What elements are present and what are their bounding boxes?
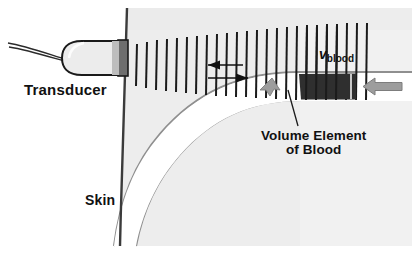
transducer-probe xyxy=(62,40,128,76)
skin-label: Skin xyxy=(85,193,115,208)
blood-velocity-label: vblood xyxy=(319,47,354,64)
volume-element-line-1: Volume Element xyxy=(261,128,366,143)
transducer-label: Transducer xyxy=(24,82,107,98)
doppler-ultrasound-diagram: Transducer Skin vblood Volume Element of… xyxy=(0,0,412,254)
volume-element-label: Volume Element of Blood xyxy=(261,129,366,157)
transducer-cable xyxy=(8,43,68,62)
velocity-subscript: blood xyxy=(327,53,354,64)
diagram-graphics xyxy=(0,0,412,254)
velocity-symbol: v xyxy=(319,46,327,62)
volume-element-line-2: of Blood xyxy=(261,143,366,157)
